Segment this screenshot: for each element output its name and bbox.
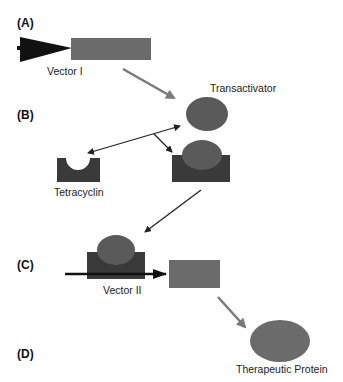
tetracyclin-shape bbox=[57, 158, 100, 182]
transactivator-tetracyclin-complex bbox=[172, 140, 230, 182]
vector-1-label: Vector I bbox=[47, 65, 83, 77]
tet-system-diagram: (A) (B) (C) (D) Vector I Transactivator … bbox=[0, 0, 343, 382]
equilibrium-arrow bbox=[88, 126, 180, 153]
tetracyclin-label: Tetracyclin bbox=[54, 186, 104, 198]
panel-label-d: (D) bbox=[17, 347, 34, 361]
vector-2 bbox=[65, 235, 220, 288]
expression-arrow-1 bbox=[123, 69, 174, 98]
transactivator-protein bbox=[186, 97, 228, 131]
panel-label-b: (B) bbox=[17, 108, 34, 122]
panel-label-c: (C) bbox=[17, 258, 34, 272]
expression-arrow-2 bbox=[218, 297, 245, 327]
therapeutic-protein-label: Therapeutic Protein bbox=[236, 363, 328, 375]
vector-2-label: Vector II bbox=[103, 284, 142, 296]
promoter-triangle-icon bbox=[20, 37, 72, 62]
transactivator-label: Transactivator bbox=[210, 82, 277, 94]
therapeutic-gene-box bbox=[169, 260, 220, 288]
complex-protein bbox=[182, 140, 222, 170]
complex-to-vector2-arrow bbox=[145, 190, 201, 232]
binding-arrow bbox=[154, 134, 172, 152]
panel-label-a: (A) bbox=[17, 16, 34, 30]
transactivator-gene-box bbox=[71, 38, 151, 60]
therapeutic-protein bbox=[250, 320, 310, 362]
vector-1 bbox=[17, 37, 151, 62]
bound-transactivator bbox=[97, 235, 135, 265]
